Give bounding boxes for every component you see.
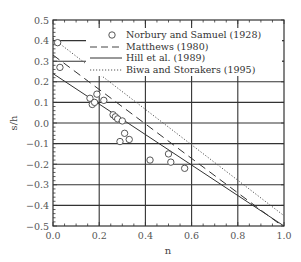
x-tick-labels: 0.00.20.40.60.81.0 (45, 230, 291, 241)
x-tick-label: 0.4 (138, 230, 153, 241)
data-point (91, 99, 97, 105)
legend-item-norbury: Norbury and Samuel (1928) (109, 29, 261, 40)
open-circle-icon (109, 32, 115, 38)
data-point (181, 165, 187, 171)
y-tick-label: 0.1 (34, 97, 49, 108)
data-point (117, 138, 123, 144)
y-tick-labels: 0.50.40.30.20.10.0−0.1−0.2−0.3−0.4−0.5 (26, 15, 49, 232)
y-tick-label: −0.4 (26, 200, 49, 211)
data-point (121, 130, 127, 136)
y-tick-label: −0.3 (26, 179, 49, 190)
data-point (126, 136, 132, 142)
y-tick-label: 0.2 (34, 76, 49, 87)
data-point (168, 159, 174, 165)
x-tick-label: 0.2 (92, 230, 107, 241)
data-point (147, 157, 153, 163)
x-tick-label: 0.6 (184, 230, 199, 241)
y-tick-label: 0.4 (34, 35, 49, 46)
x-tick-label: 0.0 (45, 230, 60, 241)
dashed-line-series (53, 55, 279, 224)
x-axis-label: n (165, 245, 172, 256)
y-tick-label: −0.2 (26, 159, 49, 170)
y-tick-label: 0.5 (34, 15, 49, 26)
legend-label: Biwa and Storakers (1995) (126, 64, 255, 75)
legend: Norbury and Samuel (1928) Matthews (1980… (86, 28, 282, 76)
legend-label: Matthews (1980) (126, 41, 208, 52)
data-point (119, 118, 125, 124)
data-point (165, 151, 171, 157)
y-axis-label: s/h (8, 115, 19, 131)
data-point (57, 64, 63, 70)
chart: 0.50.40.30.20.10.0−0.1−0.2−0.3−0.4−0.5 0… (0, 0, 301, 262)
y-tick-label: 0.0 (34, 118, 49, 129)
legend-label: Hill et al. (1989) (126, 52, 205, 63)
x-tick-label: 1.0 (276, 230, 291, 241)
data-point (94, 91, 100, 97)
legend-label: Norbury and Samuel (1928) (126, 29, 261, 40)
y-tick-label: −0.1 (26, 138, 49, 149)
y-tick-label: 0.3 (34, 56, 49, 67)
x-tick-label: 0.8 (230, 230, 245, 241)
data-point (54, 39, 60, 45)
data-point (101, 97, 107, 103)
